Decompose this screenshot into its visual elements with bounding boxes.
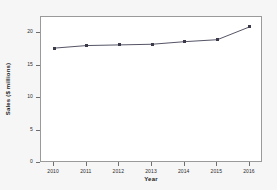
- x-tick-label: 2010: [41, 168, 65, 174]
- x-tick-mark: [151, 162, 152, 166]
- x-tick-mark: [249, 162, 250, 166]
- x-tick-mark: [53, 162, 54, 166]
- x-tick-label: 2012: [106, 168, 130, 174]
- x-tick-mark: [184, 162, 185, 166]
- x-tick-label: 2013: [139, 168, 163, 174]
- x-axis-title: Year: [40, 176, 262, 182]
- x-tick-mark: [118, 162, 119, 166]
- x-tick-label: 2015: [204, 168, 228, 174]
- chart-figure: 05101520 2010201120122013201420152016 Sa…: [0, 0, 277, 190]
- y-axis-title: Sales ($ millions): [5, 29, 11, 149]
- x-tick-label: 2014: [172, 168, 196, 174]
- x-tick-label: 2016: [237, 168, 261, 174]
- x-tick-mark: [216, 162, 217, 166]
- x-tick-label: 2011: [74, 168, 98, 174]
- x-tick-mark: [86, 162, 87, 166]
- x-axis: 2010201120122013201420152016: [0, 0, 277, 190]
